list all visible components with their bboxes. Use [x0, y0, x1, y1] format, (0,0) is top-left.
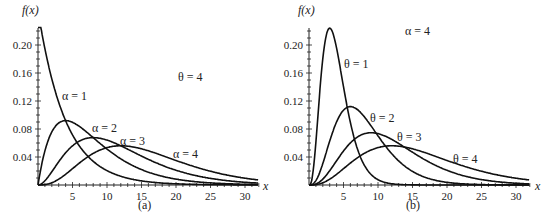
- panel-a-ylabel: f(x): [22, 3, 39, 17]
- x-tick-label: 5: [341, 190, 347, 202]
- x-tick-label: 20: [171, 190, 183, 202]
- y-tick-label: 0.08: [13, 123, 33, 135]
- panel-a-caption: (a): [138, 198, 151, 212]
- panel-b-fixed-param: α = 4: [405, 24, 430, 38]
- panel-b-ylabel: f(x): [298, 3, 315, 17]
- panel-b-axes: 510152025300.040.080.120.160.20: [284, 28, 530, 202]
- y-tick-label: 0.04: [13, 151, 33, 163]
- curve-label-theta-2: θ = 2: [370, 111, 395, 125]
- panel-b-caption: (b): [406, 198, 420, 212]
- x-tick-label: 10: [102, 190, 114, 202]
- y-tick-label: 0.04: [284, 151, 304, 163]
- curve-label-theta-3: θ = 3: [397, 130, 422, 144]
- density-curve: [38, 146, 258, 185]
- curve-label-alpha-4: α = 4: [173, 147, 198, 161]
- curve-label-alpha-1: α = 1: [62, 89, 87, 103]
- density-curve: [38, 138, 258, 185]
- density-curve: [309, 107, 529, 185]
- x-tick-label: 5: [70, 190, 76, 202]
- x-tick-label: 10: [373, 190, 385, 202]
- y-tick-label: 0.20: [284, 39, 304, 51]
- y-tick-label: 0.12: [284, 95, 303, 107]
- density-curve: [38, 28, 258, 185]
- gamma-density-figure: 510152025300.040.080.120.160.20 f(x) x (…: [0, 0, 550, 223]
- curve-label-theta-1: θ = 1: [344, 57, 369, 71]
- panel-a: 510152025300.040.080.120.160.20 f(x) x (…: [13, 3, 269, 212]
- panel-a-curves: [38, 28, 258, 186]
- panel-b: 510152025300.040.080.120.160.20 f(x) x (…: [284, 3, 541, 212]
- x-tick-label: 25: [205, 190, 217, 202]
- y-tick-label: 0.20: [13, 39, 33, 51]
- y-tick-label: 0.16: [13, 67, 33, 79]
- curve-label-alpha-2: α = 2: [92, 121, 117, 135]
- panel-a-xlabel: x: [262, 179, 269, 193]
- y-tick-label: 0.08: [284, 123, 304, 135]
- x-tick-label: 30: [240, 190, 252, 202]
- panel-b-curves: [309, 28, 529, 185]
- x-tick-label: 30: [511, 190, 523, 202]
- curve-label-alpha-3: α = 3: [120, 134, 145, 148]
- density-curve: [309, 28, 529, 185]
- x-tick-label: 20: [442, 190, 454, 202]
- panel-a-fixed-param: θ = 4: [178, 70, 203, 84]
- curve-label-theta-4: θ = 4: [453, 152, 478, 166]
- y-tick-label: 0.16: [284, 67, 304, 79]
- y-tick-label: 0.12: [13, 95, 32, 107]
- x-tick-label: 25: [476, 190, 488, 202]
- panel-b-xlabel: x: [534, 179, 541, 193]
